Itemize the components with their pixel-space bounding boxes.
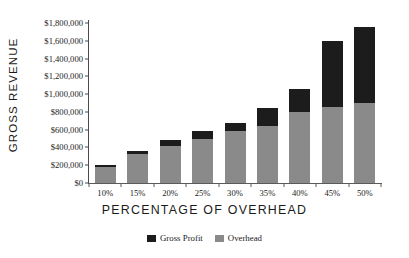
bar-segment-gross-profit[interactable]: [257, 108, 278, 126]
legend-item-label: Overhead: [228, 233, 262, 243]
legend-item[interactable]: Gross Profit: [147, 233, 203, 243]
bar-segment-overhead[interactable]: [95, 167, 116, 183]
x-tick-label: 25%: [195, 188, 211, 198]
legend-item[interactable]: Overhead: [215, 233, 262, 243]
x-tick-label: 40%: [292, 188, 308, 198]
bar-segment-gross-profit[interactable]: [192, 131, 213, 138]
stacked-bar[interactable]: [95, 165, 116, 183]
bar-segment-overhead[interactable]: [354, 103, 375, 183]
stacked-bar[interactable]: [225, 123, 246, 183]
x-tick-mark: [153, 184, 154, 187]
y-tick-label: $600,000: [51, 125, 89, 135]
x-tick-label: 30%: [227, 188, 243, 198]
x-tick-mark: [121, 184, 122, 187]
y-tick-label: $0: [74, 178, 89, 188]
stacked-bar[interactable]: [192, 131, 213, 183]
bar-segment-overhead[interactable]: [225, 131, 246, 183]
y-tick-label: $1,200,000: [44, 71, 89, 81]
stacked-bar[interactable]: [257, 108, 278, 183]
y-tick-label: $1,800,000: [44, 18, 89, 28]
x-tick-label: 45%: [324, 188, 340, 198]
bar-segment-gross-profit[interactable]: [289, 89, 310, 112]
x-tick-label: 15%: [130, 188, 146, 198]
y-tick-label: $1,600,000: [44, 36, 89, 46]
x-tick-mark: [186, 184, 187, 187]
x-axis-line: [88, 183, 382, 184]
y-axis-title-label: GROSS REVENUE: [7, 38, 19, 153]
x-tick-mark: [381, 184, 382, 187]
x-tick-mark: [283, 184, 284, 187]
bar-segment-overhead[interactable]: [322, 107, 343, 183]
x-tick-label: 50%: [357, 188, 373, 198]
y-tick-label: $800,000: [51, 107, 89, 117]
y-tick-label: $1,400,000: [44, 54, 89, 64]
y-axis-title: GROSS REVENUE: [0, 0, 26, 190]
x-tick-mark: [316, 184, 317, 187]
bar-segment-overhead[interactable]: [127, 154, 148, 183]
y-tick-label: $400,000: [51, 142, 89, 152]
x-tick-mark: [251, 184, 252, 187]
stacked-bar[interactable]: [354, 27, 375, 183]
bar-segment-gross-profit[interactable]: [322, 41, 343, 107]
bar-segment-overhead[interactable]: [289, 112, 310, 183]
bar-segment-overhead[interactable]: [160, 146, 181, 183]
plot-area: $0$200,000$400,000$600,000$800,000$1,000…: [89, 20, 381, 183]
x-tick-mark: [89, 184, 90, 187]
y-tick-label: $200,000: [51, 160, 89, 170]
bar-segment-gross-profit[interactable]: [354, 27, 375, 103]
stacked-bar-chart: GROSS REVENUE $0$200,000$400,000$600,000…: [0, 0, 409, 258]
chart-legend: Gross ProfitOverhead: [0, 233, 409, 243]
stacked-bar[interactable]: [160, 140, 181, 183]
x-tick-label: 35%: [260, 188, 276, 198]
legend-swatch-icon: [147, 235, 156, 242]
bar-segment-overhead[interactable]: [192, 139, 213, 183]
stacked-bar[interactable]: [127, 151, 148, 183]
stacked-bar[interactable]: [289, 89, 310, 183]
x-tick-label: 10%: [97, 188, 113, 198]
x-tick-label: 20%: [162, 188, 178, 198]
x-tick-mark: [348, 184, 349, 187]
stacked-bar[interactable]: [322, 41, 343, 183]
y-tick-label: $1,000,000: [44, 89, 89, 99]
bar-segment-gross-profit[interactable]: [225, 123, 246, 132]
x-tick-mark: [218, 184, 219, 187]
legend-item-label: Gross Profit: [160, 233, 203, 243]
x-axis-title: PERCENTAGE OF OVERHEAD: [0, 203, 409, 217]
bar-segment-overhead[interactable]: [257, 126, 278, 183]
legend-swatch-icon: [215, 235, 224, 242]
